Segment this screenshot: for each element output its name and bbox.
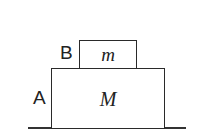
- block-b-mass: m: [79, 45, 137, 64]
- block-b-label: B: [60, 43, 73, 62]
- block-a-mass: M: [51, 89, 165, 109]
- block-a-label: A: [33, 88, 46, 107]
